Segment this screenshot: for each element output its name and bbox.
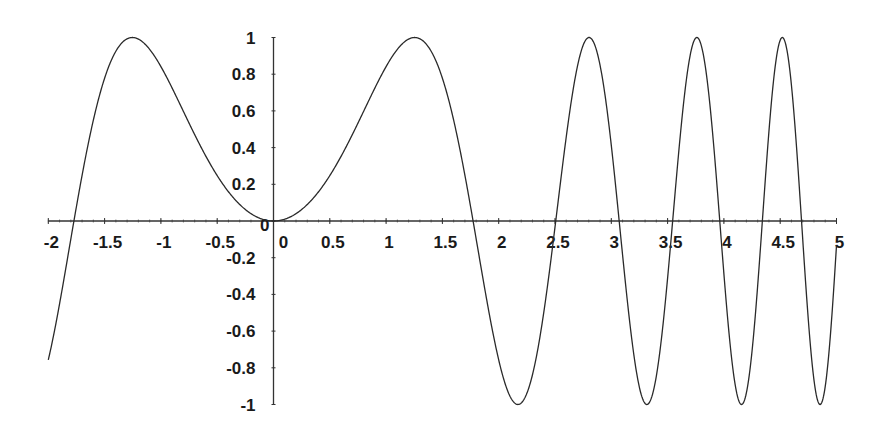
x-tick-label: 0.5 xyxy=(321,233,345,252)
y-tick-label: -1 xyxy=(240,396,255,415)
y-tick-label: 0.2 xyxy=(232,175,256,194)
y-tick-label: 0.4 xyxy=(232,139,256,158)
x-tick-label: 0 xyxy=(279,233,288,252)
y-tick-label: 1 xyxy=(246,29,255,48)
x-tick-label: 1.5 xyxy=(434,233,458,252)
x-tick-label: -1.5 xyxy=(93,233,122,252)
x-tick-label: -1 xyxy=(156,233,171,252)
y-tick-label: -0.8 xyxy=(226,359,255,378)
y-tick-label: 0.6 xyxy=(232,102,256,121)
x-tick-label: 3 xyxy=(610,233,619,252)
x-tick-label: 4.5 xyxy=(771,233,795,252)
y-tick-label: -0.6 xyxy=(226,322,255,341)
chart-plot: -2-1.5-1-0.500.511.522.533.544.5510.80.6… xyxy=(0,0,893,438)
x-tick-label: 1 xyxy=(384,233,393,252)
y-tick-label: -0.2 xyxy=(226,249,255,268)
y-tick-label: -0.4 xyxy=(226,285,256,304)
x-tick-label: 2.5 xyxy=(546,233,570,252)
x-tick-label: 4 xyxy=(722,233,732,252)
x-tick-label: 2 xyxy=(497,233,506,252)
x-tick-label: -2 xyxy=(44,233,59,252)
y-tick-label: 0.8 xyxy=(232,65,256,84)
